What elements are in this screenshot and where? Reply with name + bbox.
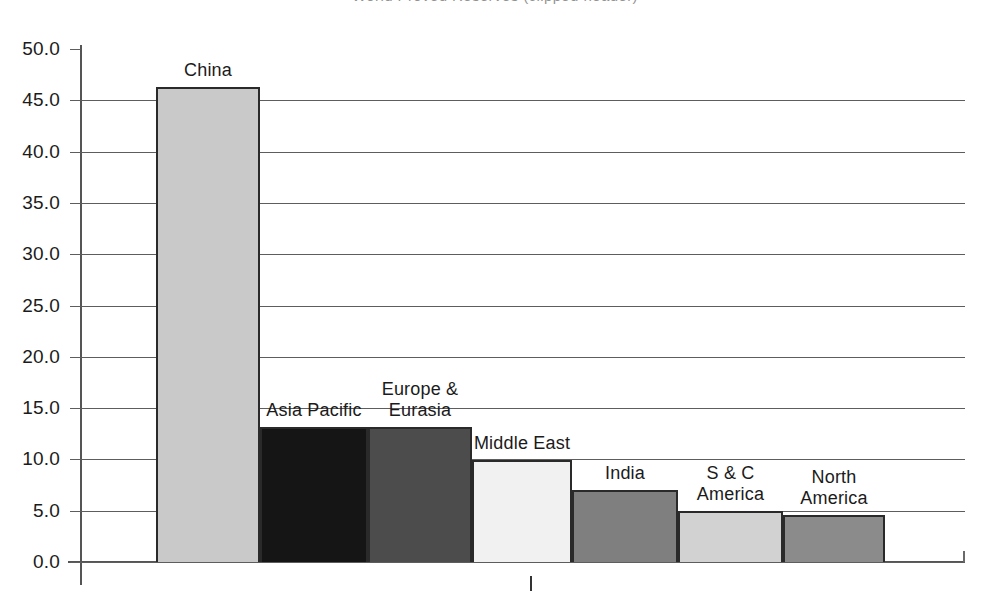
bar xyxy=(156,87,260,562)
y-axis-tick-label: 0.0 xyxy=(0,552,60,571)
bar xyxy=(783,515,885,562)
y-axis-tick-label: 45.0 xyxy=(0,90,60,109)
bar-category-label: Europe & Eurasia xyxy=(328,379,512,421)
bar xyxy=(260,427,368,562)
bar-category-label: Middle East xyxy=(432,433,612,454)
y-axis-tick-label: 10.0 xyxy=(0,449,60,468)
bar-category-label: China xyxy=(116,60,300,81)
y-axis-tick-label: 35.0 xyxy=(0,193,60,212)
y-axis-tick-label: 15.0 xyxy=(0,398,60,417)
y-axis-tick-label: 20.0 xyxy=(0,347,60,366)
bar-category-label: North America xyxy=(743,467,925,509)
y-axis-tick-label: 5.0 xyxy=(0,501,60,520)
x-axis-center-tick xyxy=(530,576,532,591)
y-axis-tick-label: 40.0 xyxy=(0,142,60,161)
y-axis-tick-label: 25.0 xyxy=(0,296,60,315)
bar xyxy=(678,511,783,562)
gridline xyxy=(80,562,965,563)
y-axis-tick xyxy=(70,562,81,563)
bar-chart-figure: World Proved Reserves (clipped header) 5… xyxy=(0,0,990,609)
y-axis-tick-label: 30.0 xyxy=(0,244,60,263)
y-axis-tick-label: 50.0 xyxy=(0,39,60,58)
